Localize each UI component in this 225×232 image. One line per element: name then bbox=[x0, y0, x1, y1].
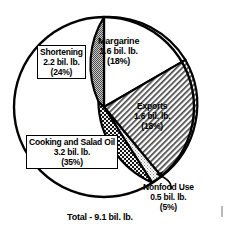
slice-label-exports-percent: (18%) bbox=[134, 121, 170, 131]
slice-label-cooking-and-salad-oil-percent: (35%) bbox=[29, 157, 115, 167]
slice-label-nonfood-use: Nonfood Use 0.5 bil. lb. (5%) bbox=[143, 182, 194, 212]
slice-label-margarine-name: Margarine bbox=[98, 36, 139, 46]
slice-label-nonfood-use-percent: (5%) bbox=[143, 202, 194, 212]
slice-label-shortening-percent: (24%) bbox=[40, 67, 83, 77]
pie-chart: Margarine 1.6 bil. lb. (18%) Shortening … bbox=[0, 0, 225, 232]
slice-label-shortening-name: Shortening bbox=[40, 47, 83, 57]
slice-label-cooking-and-salad-oil: Cooking and Salad Oil 3.2 bil. lb. (35%) bbox=[26, 135, 118, 169]
slice-label-nonfood-use-value: 0.5 bil. lb. bbox=[143, 192, 194, 202]
scan-edge-artifact bbox=[221, 206, 223, 217]
slice-label-shortening-value: 2.2 bil. lb. bbox=[40, 57, 83, 67]
slice-label-shortening: Shortening 2.2 bil. lb. (24%) bbox=[37, 45, 86, 79]
slice-label-exports-name: Exports bbox=[134, 101, 170, 111]
chart-total-caption: Total - 9.1 bil. lb. bbox=[45, 212, 155, 222]
slice-label-exports-value: 1.6 bil. lb. bbox=[134, 111, 170, 121]
slice-label-margarine: Margarine 1.6 bil. lb. (18%) bbox=[98, 36, 139, 66]
slice-label-nonfood-use-name: Nonfood Use bbox=[143, 182, 194, 192]
slice-label-margarine-value: 1.6 bil. lb. bbox=[98, 46, 139, 56]
slice-label-margarine-percent: (18%) bbox=[98, 56, 139, 66]
slice-label-cooking-and-salad-oil-value: 3.2 bil. lb. bbox=[29, 147, 115, 157]
slice-label-exports: Exports 1.6 bil. lb. (18%) bbox=[134, 101, 170, 131]
slice-label-cooking-and-salad-oil-name: Cooking and Salad Oil bbox=[29, 137, 115, 147]
